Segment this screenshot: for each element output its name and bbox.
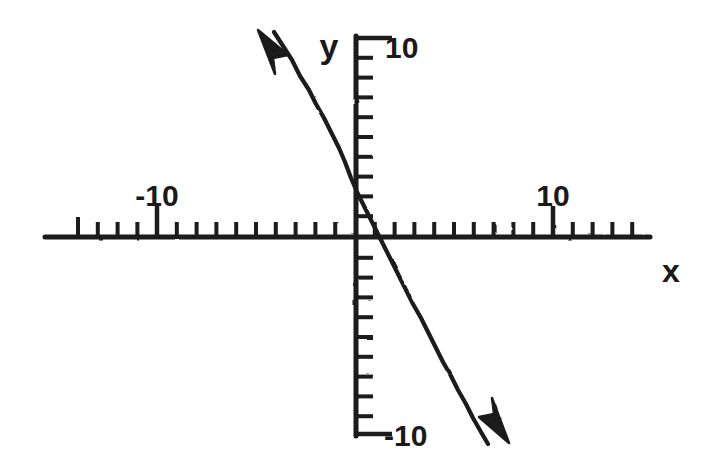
x-tick-label-pos10: 10 (536, 179, 569, 212)
y-axis-minor-ticks-negative (356, 258, 373, 416)
x-tick-label-neg10: -10 (135, 179, 178, 212)
y-tick-label-pos10: 10 (385, 31, 418, 64)
y-axis-label: y (320, 27, 339, 65)
line-arrowhead-upper-left (258, 30, 288, 74)
graph-figure: y 10 -10 -10 10 x (0, 0, 710, 473)
x-axis-minor-ticks-negative (78, 217, 335, 237)
x-axis-label: x (662, 253, 680, 289)
coordinate-plane-svg: y 10 -10 -10 10 x (0, 0, 710, 473)
y-tick-label-neg10: -10 (384, 419, 427, 452)
